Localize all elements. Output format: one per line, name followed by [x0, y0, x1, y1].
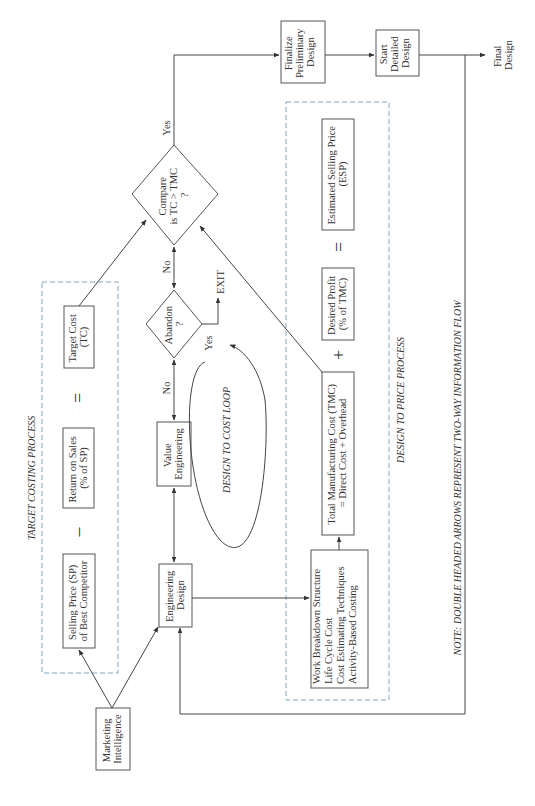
edge-yes-to-finalize: [174, 55, 279, 145]
marketing-intelligence-label: Marketing Intelligence: [101, 714, 123, 764]
note-text: NOTE: DOUBLE HEADED ARROWS REPRESENT TWO…: [452, 299, 463, 657]
tmc-label: Total Manufacturing Cost (TMC) = Direct …: [326, 381, 348, 524]
yes-label-compare: Yes: [161, 120, 172, 135]
edge-marketing-to-selling-price: [79, 650, 112, 708]
equals-operator-price: =: [329, 242, 349, 252]
plus-operator-price: +: [329, 350, 349, 360]
minus-operator-tc: –: [68, 527, 88, 538]
flowchart-canvas: Finalize Preliminary Design Start Detail…: [0, 0, 535, 806]
selling-price-label: Selling Price (SP) of Best Competitor: [67, 560, 89, 641]
design-to-price-label: DESIGN TO PRICE PROCESS: [395, 337, 406, 464]
edge-marketing-to-engineering: [112, 627, 158, 708]
yes-label-abandon: Yes: [203, 335, 214, 350]
final-design-label: Final Design: [492, 39, 514, 69]
equals-operator-tc: =: [68, 393, 88, 403]
desired-profit-label: Desired Profit (% of TMC): [326, 273, 349, 335]
edge-target-cost-to-compare: [79, 220, 146, 306]
design-to-cost-loop-label: DESIGN TO COST LOOP: [221, 387, 232, 494]
no-label-compare: No: [161, 261, 172, 274]
exit-label: EXIT: [215, 269, 226, 293]
edge-abandon-exit: [202, 298, 218, 324]
target-costing-label: TARGET COSTING PROCESS: [26, 416, 37, 541]
no-label-abandon: No: [161, 382, 172, 395]
